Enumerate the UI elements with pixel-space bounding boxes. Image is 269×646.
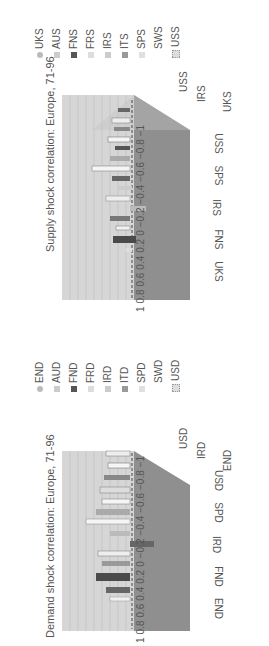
z-tick: −0.8: [135, 470, 146, 490]
legend-item: ITD: [119, 367, 130, 392]
z-tick: 0.8: [135, 290, 146, 304]
legend-item: AUD: [51, 362, 62, 392]
legend-item: SWS: [153, 26, 164, 58]
swatch-lines-icon: [54, 52, 60, 58]
legend-item: AUS: [51, 28, 62, 58]
legend-item: SWD: [153, 360, 164, 392]
category-label: FND: [213, 566, 224, 587]
z-tick: 0.2: [135, 570, 146, 584]
category-label: END: [213, 598, 224, 619]
z-tick: 0.6: [135, 604, 146, 618]
z-tick: 0.4: [135, 256, 146, 270]
legend-item: END: [34, 362, 45, 392]
supply-z-axis: 1 0.8 0.6 0.4 0.2 0 −0.2 −0.4 −0.6 −0.8 …: [135, 125, 146, 312]
swatch-solid-icon: [71, 386, 77, 392]
swatch-dots-icon: [37, 52, 43, 58]
z-tick: −0.4: [135, 516, 146, 536]
swatch-vlines-icon: [88, 386, 94, 392]
legend-item: IRS: [102, 32, 113, 58]
z-tick: 0.6: [135, 273, 146, 287]
supply-chart-panel: Supply shock correlation: Europe, 71-96 …: [0, 0, 269, 323]
demand-chart-panel: Demand shock correlation: Europe, 71-96 …: [0, 323, 269, 646]
legend-item: SPD: [136, 362, 147, 392]
swatch-dots-icon: [37, 386, 43, 392]
legend-item: FND: [68, 362, 79, 392]
category-label: FNS: [213, 230, 224, 250]
legend-item: FNS: [68, 29, 79, 58]
depth-label: IRD: [196, 442, 207, 459]
z-tick: −0.4: [135, 185, 146, 205]
z-tick: 1: [135, 306, 146, 312]
category-label: UKS: [213, 261, 224, 282]
z-tick: 1: [135, 637, 146, 643]
swatch-grid-icon: [122, 52, 128, 58]
z-tick: 0: [135, 561, 146, 567]
swatch-dotted-icon: [172, 384, 180, 392]
category-label: USD: [213, 470, 224, 491]
supply-chart-title: Supply shock correlation: Europe, 71-96: [44, 56, 56, 252]
demand-legend-items: END AUD FND FRD IRD ITD SPD SWD USD: [34, 340, 184, 395]
legend-item: FRS: [85, 29, 96, 58]
depth-label: UKS: [222, 91, 233, 112]
depth-label: USS: [178, 71, 189, 92]
swatch-diag-icon: [105, 52, 111, 58]
supply-legend-items: UKS AUS FNS FRS IRS ITS SPS SWS USS: [34, 6, 184, 61]
z-tick: −0.8: [135, 139, 146, 159]
legend-item: IRD: [102, 366, 113, 392]
depth-label: USD: [178, 428, 189, 449]
legend-item: FRD: [85, 362, 96, 392]
category-label: IRD: [211, 536, 222, 553]
swatch-dotted-icon: [172, 50, 180, 58]
legend-item: USS: [170, 26, 181, 58]
legend-item: USD: [170, 360, 181, 392]
z-tick: −0.2: [135, 208, 146, 228]
z-tick: −0.6: [135, 493, 146, 513]
swatch-diag-light-icon: [139, 386, 145, 392]
swatch-diag-icon: [105, 386, 111, 392]
swatch-lines-icon: [54, 386, 60, 392]
z-tick: −0.2: [135, 539, 146, 559]
swatch-white-icon: [156, 52, 162, 58]
legend-item: ITS: [119, 33, 130, 58]
legend-item: SPS: [136, 29, 147, 58]
legend-item: UKS: [34, 28, 45, 58]
z-tick: 0.8: [135, 621, 146, 635]
swatch-diag-light-icon: [139, 52, 145, 58]
z-tick: −1: [135, 125, 146, 136]
category-label: IRS: [211, 199, 222, 216]
swatch-white-icon: [156, 386, 162, 392]
category-label: SPD: [213, 502, 224, 523]
z-tick: −1: [135, 456, 146, 467]
z-tick: 0: [135, 230, 146, 236]
demand-chart-title: Demand shock correlation: Europe, 71-96: [44, 434, 56, 638]
depth-label: IRS: [196, 85, 207, 102]
depth-label: END: [222, 450, 233, 471]
category-label: USS: [213, 133, 224, 154]
z-tick: 0.4: [135, 587, 146, 601]
swatch-vlines-icon: [88, 52, 94, 58]
swatch-solid-icon: [71, 52, 77, 58]
z-tick: 0.2: [135, 239, 146, 253]
demand-z-axis: 1 0.8 0.6 0.4 0.2 0 −0.2 −0.4 −0.6 −0.8 …: [135, 456, 146, 643]
z-tick: −0.6: [135, 162, 146, 182]
swatch-grid-icon: [122, 386, 128, 392]
category-label: SPS: [213, 165, 224, 185]
